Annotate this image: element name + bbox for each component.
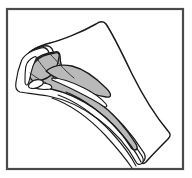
figure-container <box>0 0 192 178</box>
anatomical-line-drawing <box>0 0 192 178</box>
